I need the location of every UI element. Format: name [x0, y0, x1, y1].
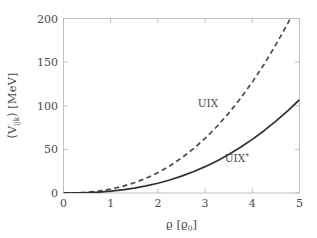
y-tick-label: 50: [44, 143, 58, 156]
x-tick-labels: 0 1 2 3 4 5: [60, 197, 303, 210]
x-tick-label: 1: [107, 197, 114, 210]
x-tick-label: 4: [249, 197, 256, 210]
x-axis-title-bracket-close: ]: [192, 217, 197, 231]
svg-text:⟨Vijk⟩ [MeV]: ⟨Vijk⟩ [MeV]: [5, 73, 21, 139]
y-axis-title: ⟨Vijk⟩ [MeV]: [5, 73, 21, 139]
y-tickmarks: [64, 19, 69, 194]
annotation-uix: UIX: [198, 97, 219, 109]
y-tick-label: 200: [37, 13, 58, 26]
series-group: [64, 1, 300, 193]
chart-figure: 0 50 100 150 200 0 1 2 3 4 5 ⟨Vijk⟩ [MeV…: [0, 0, 317, 238]
annotation-uix-star: UIX*: [225, 152, 249, 164]
x-tick-label: 2: [154, 197, 161, 210]
series-line-uix: [64, 1, 300, 193]
y-tick-label: 150: [37, 56, 58, 69]
y-tick-labels: 0 50 100 150 200: [37, 13, 58, 201]
annotation-star-glyph: *: [245, 152, 249, 161]
plot-frame: [64, 19, 300, 194]
x-tick-label: 3: [202, 197, 209, 210]
y-axis-title-subscript: ijk: [12, 116, 21, 126]
x-tick-label: 5: [296, 197, 303, 210]
x-axis-title: ϱ [ϱ0]: [166, 217, 197, 233]
y-tick-label: 0: [51, 187, 58, 200]
series-line-uix-star: [64, 100, 300, 193]
y-tickmarks-right: [295, 19, 300, 194]
y-tick-label: 100: [37, 100, 58, 113]
y-axis-title-open: ⟨V: [5, 125, 19, 138]
y-axis-title-close: ⟩ [MeV]: [5, 73, 19, 117]
plot-canvas: 0 50 100 150 200 0 1 2 3 4 5 ⟨Vijk⟩ [MeV…: [0, 0, 317, 238]
x-axis-title-bracket-open: [: [173, 217, 181, 231]
x-tick-label: 0: [60, 197, 67, 210]
x-tickmarks-top: [64, 19, 300, 24]
annotation-uix-star-text: UIX: [225, 152, 246, 164]
